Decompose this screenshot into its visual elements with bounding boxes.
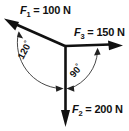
force-vector-diagram: F1 = 100 N F3 = 150 N F2 = 200 N 120° 90… xyxy=(0,0,129,131)
force-vector-F3-shaft xyxy=(65,45,110,47)
force-label-F1-value: = 100 N xyxy=(31,4,72,16)
force-diagram-container: F1 = 100 N F3 = 150 N F2 = 200 N 120° 90… xyxy=(0,0,129,131)
force-label-F2-value: = 200 N xyxy=(83,103,124,115)
force-label-F3-value: = 150 N xyxy=(85,26,126,38)
